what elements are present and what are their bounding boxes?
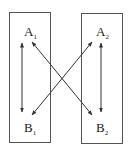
- diagram-canvas: A1 B1 A2 B2: [0, 0, 128, 152]
- svg-text:B2: B2: [96, 120, 109, 137]
- node-b1: B1: [24, 120, 37, 137]
- svg-text:A1: A1: [24, 24, 37, 41]
- node-b2: B2: [96, 120, 109, 137]
- svg-text:B1: B1: [24, 120, 37, 137]
- node-a2: A2: [96, 24, 109, 41]
- node-a1: A1: [24, 24, 37, 41]
- svg-text:A2: A2: [96, 24, 109, 41]
